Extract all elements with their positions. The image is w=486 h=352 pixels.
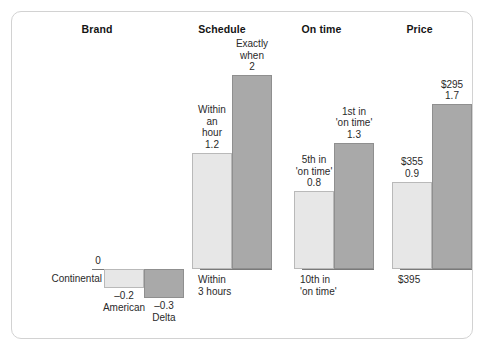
zero-baseline-on-time (302, 269, 374, 270)
zero-baseline-schedule (200, 269, 272, 270)
bar-group-brand: Brand0Continental–0.2American–0.3Delta (32, 12, 162, 340)
bar-schedule-american[interactable] (192, 153, 232, 269)
bar-price-delta[interactable] (432, 104, 472, 269)
bar-schedule-delta[interactable] (232, 75, 272, 269)
group-title-brand: Brand (32, 23, 162, 35)
bar-value-price-delta: 1.7 (418, 90, 486, 102)
bar-on-time-american[interactable] (294, 191, 334, 269)
baseline-caption-schedule: Within 3 hours (198, 274, 268, 297)
chart-card: Brand0Continental–0.2American–0.3DeltaSc… (11, 11, 473, 339)
bar-group-on-time: On time010th in 'on time'0.85th in 'on t… (274, 12, 369, 340)
bar-group-price: Price0$3950.9$3551.7$295 (372, 12, 467, 340)
group-title-on-time: On time (274, 23, 369, 35)
zero-baseline-price (400, 269, 472, 270)
bar-on-time-delta[interactable] (334, 143, 374, 269)
baseline-caption-brand: Continental (24, 273, 102, 285)
bar-group-schedule: Schedule0Within 3 hours1.2Within an hour… (172, 12, 272, 340)
bar-brand-american[interactable] (104, 269, 144, 288)
bar-price-american[interactable] (392, 182, 432, 269)
group-title-schedule: Schedule (172, 23, 272, 35)
baseline-caption-price: $395 (398, 274, 468, 286)
bar-caption-price-delta: $295 (414, 79, 486, 91)
zero-value-label-brand: 0 (88, 255, 108, 266)
bar-chart-plot: Brand0Continental–0.2American–0.3DeltaSc… (12, 12, 474, 340)
group-title-price: Price (372, 23, 467, 35)
baseline-caption-on-time: 10th in 'on time' (300, 274, 370, 297)
